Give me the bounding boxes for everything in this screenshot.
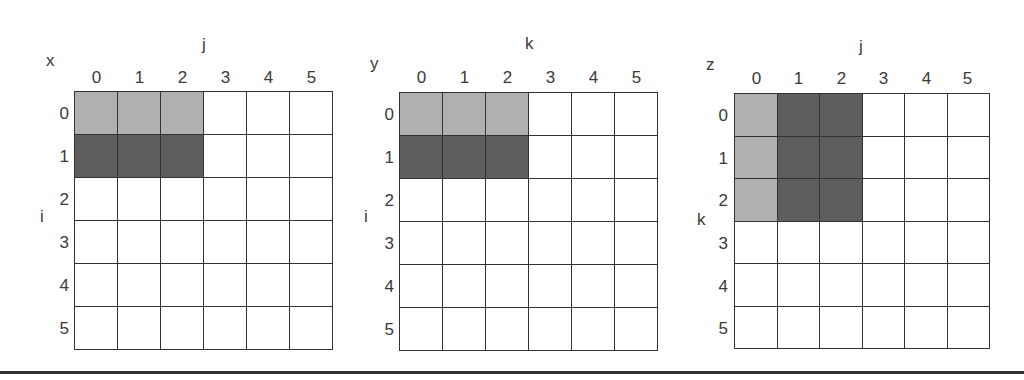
grid-cell-light bbox=[400, 93, 443, 136]
grid-cell bbox=[486, 222, 529, 265]
grid-cell-dark bbox=[443, 136, 486, 179]
grid-cell bbox=[75, 307, 118, 350]
col-tick: 3 bbox=[204, 69, 247, 86]
row-tick: 5 bbox=[374, 321, 394, 338]
grid-cell bbox=[400, 308, 443, 351]
col-tick: 0 bbox=[400, 69, 443, 86]
grid-cell bbox=[863, 264, 906, 307]
grid-cell-light bbox=[486, 93, 529, 136]
array-grid bbox=[74, 91, 333, 350]
col-tick: 4 bbox=[905, 70, 948, 87]
grid-cell-light bbox=[161, 92, 204, 135]
row-tick: 5 bbox=[708, 320, 728, 337]
grid-cell bbox=[820, 222, 863, 265]
grid-cell bbox=[948, 94, 991, 137]
grid-cell bbox=[400, 222, 443, 265]
col-tick: 5 bbox=[946, 70, 989, 87]
grid-cell bbox=[118, 178, 161, 221]
grid-cell bbox=[572, 308, 615, 351]
grid-cell-dark bbox=[778, 137, 821, 180]
col-tick: 0 bbox=[75, 69, 118, 86]
grid-cell bbox=[486, 265, 529, 308]
col-tick: 2 bbox=[486, 69, 529, 86]
row-axis-label: i bbox=[40, 208, 44, 225]
grid-cell-dark bbox=[820, 137, 863, 180]
grid-cell bbox=[75, 264, 118, 307]
row-tick: 1 bbox=[374, 149, 394, 166]
grid-cell bbox=[247, 221, 290, 264]
array-name-label: x bbox=[46, 52, 55, 69]
grid-cell bbox=[615, 93, 658, 136]
grid-cell bbox=[118, 264, 161, 307]
grid-cell-dark bbox=[75, 135, 118, 178]
grid-cell bbox=[615, 265, 658, 308]
grid-cell bbox=[247, 307, 290, 350]
grid-cell-dark bbox=[820, 94, 863, 137]
grid-cell bbox=[948, 222, 991, 265]
grid-cell bbox=[778, 307, 821, 350]
row-tick: 3 bbox=[49, 234, 69, 251]
row-axis-label: k bbox=[697, 211, 706, 228]
grid-cell bbox=[572, 136, 615, 179]
grid-cell bbox=[735, 307, 778, 350]
grid-cell bbox=[948, 307, 991, 350]
grid-cell bbox=[161, 264, 204, 307]
grid-cell bbox=[820, 264, 863, 307]
grid-cell bbox=[290, 221, 333, 264]
grid-cell-dark bbox=[118, 135, 161, 178]
grid-cell-dark bbox=[778, 179, 821, 222]
grid-cell bbox=[905, 307, 948, 350]
col-tick: 3 bbox=[862, 70, 905, 87]
panel-x-array: x j i 0 1 2 3 4 5 0 1 2 3 4 5 bbox=[0, 0, 340, 360]
grid-cell bbox=[400, 179, 443, 222]
row-tick: 0 bbox=[374, 106, 394, 123]
grid-cell bbox=[290, 135, 333, 178]
grid-cell bbox=[905, 94, 948, 137]
grid-cell bbox=[863, 137, 906, 180]
grid-cell bbox=[529, 179, 572, 222]
grid-cell bbox=[905, 179, 948, 222]
grid-cell bbox=[443, 308, 486, 351]
grid-cell-light bbox=[443, 93, 486, 136]
col-tick: 4 bbox=[247, 69, 290, 86]
row-tick: 0 bbox=[708, 107, 728, 124]
grid-cell bbox=[75, 221, 118, 264]
grid-cell bbox=[615, 308, 658, 351]
row-tick: 4 bbox=[49, 277, 69, 294]
grid-cell bbox=[572, 179, 615, 222]
grid-cell bbox=[204, 307, 247, 350]
col-tick: 1 bbox=[118, 69, 161, 86]
grid-cell bbox=[529, 136, 572, 179]
row-axis-label: i bbox=[364, 208, 368, 225]
row-tick: 2 bbox=[49, 191, 69, 208]
panel-y-array: y k i 0 1 2 3 4 5 0 1 2 3 4 5 bbox=[340, 0, 680, 360]
grid-cell bbox=[290, 307, 333, 350]
grid-cell bbox=[863, 222, 906, 265]
row-tick: 1 bbox=[49, 148, 69, 165]
col-tick: 1 bbox=[777, 70, 820, 87]
grid-cell bbox=[443, 265, 486, 308]
col-tick: 2 bbox=[161, 69, 204, 86]
row-tick: 4 bbox=[708, 278, 728, 295]
grid-cell-light bbox=[75, 92, 118, 135]
grid-cell bbox=[161, 178, 204, 221]
array-grid bbox=[734, 93, 990, 349]
grid-cell bbox=[247, 92, 290, 135]
row-tick: 3 bbox=[374, 235, 394, 252]
grid-cell bbox=[529, 93, 572, 136]
row-tick: 3 bbox=[708, 235, 728, 252]
grid-cell-dark bbox=[820, 179, 863, 222]
grid-cell bbox=[778, 264, 821, 307]
grid-cell bbox=[735, 222, 778, 265]
grid-cell bbox=[615, 222, 658, 265]
col-tick: 5 bbox=[615, 69, 658, 86]
col-tick: 2 bbox=[820, 70, 863, 87]
col-axis-label: k bbox=[525, 35, 534, 52]
array-name-label: y bbox=[370, 55, 379, 72]
col-tick: 4 bbox=[572, 69, 615, 86]
grid-cell bbox=[615, 179, 658, 222]
grid-cell bbox=[572, 93, 615, 136]
grid-cell bbox=[118, 221, 161, 264]
grid-cell bbox=[863, 179, 906, 222]
grid-cell bbox=[400, 265, 443, 308]
